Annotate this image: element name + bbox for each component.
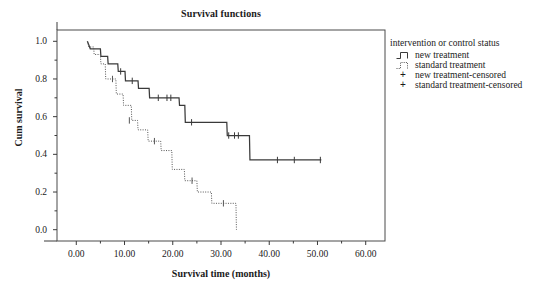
y-tick-label: 0.8	[17, 74, 47, 84]
y-tick-label: 1.0	[17, 36, 47, 46]
legend-item-1[interactable]: standard treatment	[394, 60, 535, 70]
x-tick-label: 10.00	[102, 249, 148, 259]
axis-layer	[44, 22, 385, 245]
x-axis-title: Survival time (months)	[57, 268, 385, 279]
legend-item-label: standard treatment-censored	[415, 80, 522, 90]
step-solid-icon	[394, 50, 412, 60]
x-tick-label: 0.00	[53, 249, 99, 259]
legend-item-label: new treatment-censored	[415, 70, 506, 80]
x-tick-label: 40.00	[246, 249, 292, 259]
y-tick-label: 0.0	[17, 225, 47, 235]
legend-item-label: standard treatment	[415, 60, 485, 70]
plot-frame	[57, 30, 385, 241]
legend-item-2[interactable]: +new treatment-censored	[394, 70, 535, 80]
y-tick-label: 0.2	[17, 187, 47, 197]
y-tick-label: 0.6	[17, 112, 47, 122]
x-tick-label: 20.00	[150, 249, 196, 259]
survival-chart-figure: Survival functions Cum survival Survival…	[0, 0, 535, 293]
x-tick-label: 60.00	[343, 249, 389, 259]
series-line-standard-treatment	[87, 41, 236, 229]
series-layer	[87, 41, 321, 229]
x-tick-label: 30.00	[198, 249, 244, 259]
legend-rows: new treatmentstandard treatment+new trea…	[390, 50, 535, 90]
legend-item-label: new treatment	[415, 50, 469, 60]
chart-legend: intervention or control status new treat…	[390, 38, 535, 90]
x-tick-label: 50.00	[294, 249, 340, 259]
legend-item-3[interactable]: +standard treatment-censored	[394, 80, 535, 90]
series-line-new-treatment	[87, 41, 321, 160]
censored-plus-icon: +	[394, 80, 412, 90]
legend-title: intervention or control status	[390, 38, 535, 49]
legend-item-0[interactable]: new treatment	[394, 50, 535, 60]
y-tick-label: 0.4	[17, 149, 47, 159]
